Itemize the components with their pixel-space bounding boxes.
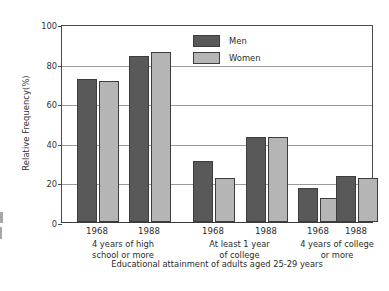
x-axis-group-caption: 4 years of highschool or more [92, 239, 154, 260]
y-axis-title: Relative Frequency(%) [21, 53, 31, 193]
x-axis-group-caption: 4 years of collegeor more [300, 239, 374, 260]
x-axis-year-label: 1988 [138, 226, 160, 236]
bar-men-1968-g1 [193, 161, 214, 222]
scan-artifact-mark [0, 227, 2, 239]
bar-men-1988-g0 [129, 56, 150, 222]
legend-item-men: Men [193, 32, 283, 49]
bar-men-1968-g0 [77, 79, 98, 222]
legend: Men Women [186, 26, 290, 72]
legend-swatch-women-icon [193, 52, 220, 64]
bar-women-1968-g1 [215, 178, 236, 222]
scan-artifact-mark [0, 212, 3, 223]
group-caption-line: 4 years of college [300, 239, 374, 250]
bar-men-1988-g2 [336, 176, 357, 222]
legend-label-women: Women [229, 53, 261, 63]
y-axis-tick-mark [58, 224, 62, 225]
x-axis-year-label: 1968 [307, 226, 329, 236]
bar-men-1968-g2 [298, 188, 319, 222]
x-axis-year-label: 1988 [255, 226, 277, 236]
x-axis-year-label: 1968 [86, 226, 108, 236]
x-axis-group-caption: At least 1 yearof college [209, 239, 270, 260]
bar-women-1968-g0 [99, 81, 120, 222]
bar-chart-figure: Relative Frequency(%) 020406080100 Men W… [0, 0, 389, 291]
group-caption-line: 4 years of high [92, 239, 154, 250]
x-axis-title: Educational attainment of adults aged 25… [61, 259, 373, 269]
legend-item-women: Women [193, 49, 283, 66]
x-axis-year-label: 1968 [202, 226, 224, 236]
legend-swatch-men-icon [193, 35, 220, 47]
bar-women-1988-g0 [151, 52, 172, 222]
bar-men-1988-g1 [246, 137, 267, 222]
group-caption-line: At least 1 year [209, 239, 270, 250]
bar-women-1988-g1 [268, 137, 289, 222]
bar-women-1988-g2 [358, 178, 379, 222]
x-axis-year-label: 1988 [345, 226, 367, 236]
legend-label-men: Men [229, 36, 247, 46]
